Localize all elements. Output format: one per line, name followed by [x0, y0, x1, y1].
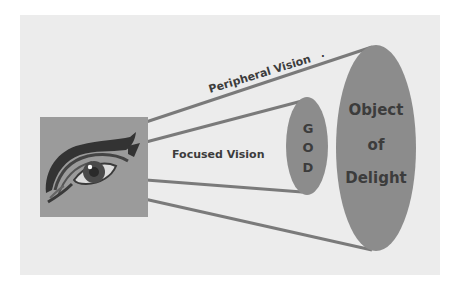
vision-diagram: Object of Delight G O D Peripheral Visio…: [0, 0, 460, 283]
focused-vision-label: Focused Vision: [172, 148, 265, 161]
peripheral-vision-dot: .: [321, 48, 325, 59]
eye-image: [40, 117, 148, 217]
object-label: Object: [349, 101, 404, 119]
god-letter-o: O: [302, 140, 313, 155]
of-label: of: [368, 136, 385, 154]
god-letter-d: D: [303, 160, 314, 175]
delight-label: Delight: [345, 169, 407, 187]
god-letter-g: G: [303, 121, 314, 136]
